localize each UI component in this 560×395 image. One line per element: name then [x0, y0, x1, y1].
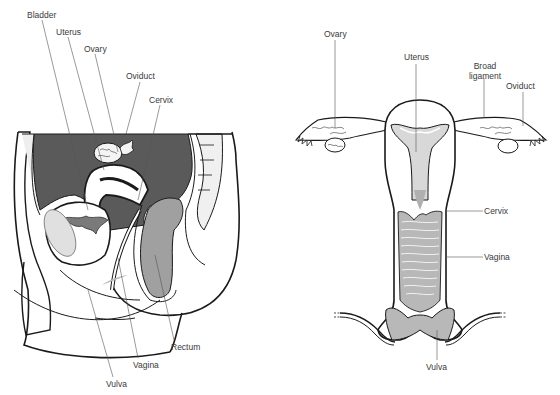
label-uterus: Uterus	[56, 27, 81, 37]
label-broad-ligament-line2: ligament	[466, 71, 504, 81]
label-broad-ligament-line1: Broad	[466, 61, 504, 71]
label-broad-ligament: Broad ligament	[466, 61, 504, 81]
label-vulva-frontal: Vulva	[426, 362, 447, 372]
label-ovary-frontal: Ovary	[324, 29, 347, 39]
label-vulva: Vulva	[106, 379, 127, 389]
label-ovary: Ovary	[84, 44, 107, 54]
label-cervix: Cervix	[149, 95, 173, 105]
label-oviduct-frontal: Oviduct	[506, 81, 535, 91]
sagittal-section-drawing	[0, 0, 560, 395]
label-vagina: Vagina	[133, 360, 159, 370]
diagram-stage: Bladder Uterus Ovary Oviduct Cervix Rect…	[0, 0, 560, 395]
label-bladder: Bladder	[27, 10, 56, 20]
label-vagina-frontal: Vagina	[484, 252, 510, 262]
label-cervix-frontal: Cervix	[484, 206, 508, 216]
label-oviduct: Oviduct	[126, 71, 155, 81]
label-rectum: Rectum	[171, 342, 200, 352]
label-uterus-frontal: Uterus	[404, 52, 429, 62]
